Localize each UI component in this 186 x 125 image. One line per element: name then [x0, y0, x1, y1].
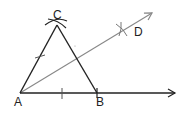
label-c: C: [53, 8, 62, 22]
label-d: D: [134, 25, 143, 39]
side-cb: [57, 25, 97, 93]
side-ac: [20, 25, 57, 93]
label-a: A: [14, 95, 22, 109]
geometry-diagram: A B C D: [0, 0, 186, 125]
ray-ad: [20, 13, 152, 93]
arc-d-2: [119, 22, 121, 36]
label-b: B: [96, 95, 104, 109]
